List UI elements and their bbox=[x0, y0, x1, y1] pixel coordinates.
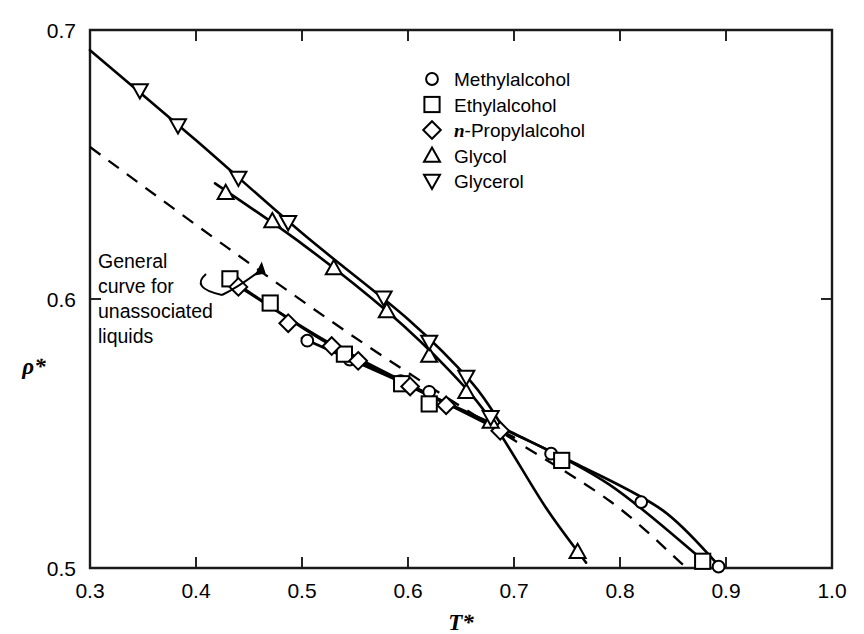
legend-marker-triangle-up bbox=[424, 148, 440, 162]
y-tick-label: 0.6 bbox=[47, 288, 76, 311]
annotation-line: unassociated bbox=[98, 300, 213, 322]
legend-marker-square bbox=[424, 97, 439, 112]
marker-n-propylalcohol bbox=[279, 314, 297, 332]
x-axis-title: T* bbox=[448, 610, 474, 634]
curve-glycol bbox=[215, 183, 586, 562]
marker-ethylalcohol bbox=[263, 295, 278, 310]
marker-methylalcohol bbox=[635, 496, 647, 508]
chart-canvas: Generalcurve forunassociatedliquids Meth… bbox=[0, 0, 864, 634]
legend-label: Glycerol bbox=[454, 171, 524, 192]
legend-marker-diamond bbox=[423, 121, 441, 139]
figure-container: Generalcurve forunassociatedliquids Meth… bbox=[0, 0, 864, 634]
legend: MethylalcoholEthylalcoholn-Propylalcohol… bbox=[423, 69, 585, 192]
marker-methylalcohol bbox=[713, 561, 725, 573]
legend-label: n-Propylalcohol bbox=[454, 120, 585, 141]
x-tick-label: 0.6 bbox=[393, 579, 422, 602]
marker-methylalcohol bbox=[301, 335, 313, 347]
annotation-arrow-tail bbox=[201, 274, 222, 295]
y-tick-label: 0.7 bbox=[47, 19, 76, 42]
annotation-arrow-head bbox=[255, 261, 266, 275]
y-tick-label: 0.5 bbox=[47, 557, 76, 580]
x-tick-label: 0.4 bbox=[181, 579, 211, 602]
marker-glycerol bbox=[170, 119, 186, 133]
x-tick-label: 0.7 bbox=[499, 579, 528, 602]
annotation-general-curve: Generalcurve forunassociatedliquids bbox=[98, 250, 266, 347]
y-axis-title: ρ* bbox=[21, 354, 46, 379]
annotation-line: curve for bbox=[98, 275, 174, 297]
curve-general-curve-for-unassociated-liquids bbox=[90, 147, 684, 565]
legend-label: Ethylalcohol bbox=[454, 95, 556, 116]
legend-label: Glycol bbox=[454, 146, 507, 167]
x-tick-label: 0.3 bbox=[75, 579, 104, 602]
marker-glycerol bbox=[280, 216, 296, 230]
x-tick-label: 0.8 bbox=[605, 579, 634, 602]
annotation-line: General bbox=[98, 250, 167, 272]
legend-marker-triangle-down bbox=[424, 175, 440, 189]
marker-ethylalcohol bbox=[695, 554, 710, 569]
legend-label: Methylalcohol bbox=[454, 69, 570, 90]
marker-ethylalcohol bbox=[422, 396, 437, 411]
annotation-line: liquids bbox=[98, 325, 154, 347]
marker-ethylalcohol bbox=[554, 453, 569, 468]
x-tick-label: 0.5 bbox=[287, 579, 316, 602]
x-tick-label: 1.0 bbox=[817, 579, 846, 602]
x-tick-label: 0.9 bbox=[711, 579, 740, 602]
legend-marker-circle bbox=[426, 73, 438, 85]
